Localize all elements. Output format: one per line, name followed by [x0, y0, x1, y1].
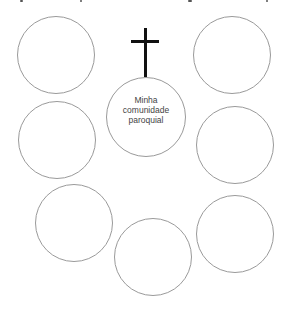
center-circle: Minha comunidade paroquial [106, 77, 186, 157]
center-label-line-3: paroquial [123, 115, 169, 125]
outer-circle-middle-left [18, 101, 96, 179]
cross-icon-bar [131, 40, 159, 43]
diagram-canvas: Minha comunidade paroquial [0, 0, 291, 310]
outer-circle-top-left [17, 16, 95, 94]
cross-icon [144, 28, 147, 77]
center-label-line-2: comunidade [123, 105, 169, 115]
outer-circle-top-right [193, 16, 271, 94]
outer-circle-bottom-center [114, 218, 192, 296]
outer-circle-middle-right [196, 106, 274, 184]
cropped-text-fragment [0, 0, 291, 4]
center-label: Minha comunidade paroquial [123, 95, 169, 125]
outer-circle-bottom-right [196, 195, 274, 273]
center-label-line-1: Minha [123, 95, 169, 105]
outer-circle-bottom-left [35, 184, 113, 262]
